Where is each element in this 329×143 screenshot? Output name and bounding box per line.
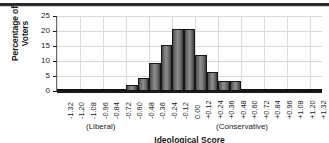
- x-tick-mark: [63, 90, 64, 93]
- x-tick-label: +0.72: [262, 91, 272, 119]
- x-tick-label: +0.84: [273, 91, 283, 119]
- top-divider-shadow: [0, 6, 329, 7]
- x-tick-label: 0.00: [193, 91, 203, 119]
- y-axis-title: Percentage of Voters: [11, 0, 30, 70]
- x-tick-label: +0.12: [204, 91, 214, 119]
- x-tick-label: -0.48: [147, 91, 157, 119]
- x-tick-mark: [236, 90, 237, 93]
- bar: [184, 29, 196, 91]
- x-tick-label: +0.36: [227, 91, 237, 119]
- bar: [172, 29, 184, 91]
- x-tick-mark: [120, 90, 121, 93]
- liberal-label: (Liberal): [86, 122, 115, 131]
- x-tick-label: +0.24: [216, 91, 226, 119]
- x-tick-label: +1.08: [296, 91, 306, 119]
- bar: [207, 72, 219, 91]
- x-tick-mark: [282, 90, 283, 93]
- x-tick-label: -0.96: [101, 91, 111, 119]
- x-tick-label: -1.32: [66, 91, 76, 119]
- y-tick-label: 20: [34, 27, 50, 35]
- x-axis-ticks: -1.32-1.20-1.08-0.96-0.84-0.72-0.60-0.48…: [57, 93, 322, 121]
- x-tick-mark: [270, 90, 271, 93]
- histogram-figure: Percentage of Voters 0510152025 -1.32-1.…: [0, 0, 329, 143]
- x-tick-label: -0.24: [170, 91, 180, 119]
- x-tick-label: -0.84: [112, 91, 122, 119]
- x-tick-mark: [201, 90, 202, 93]
- y-tick-label: 5: [34, 72, 50, 80]
- bar: [149, 63, 161, 91]
- x-tick-mark: [132, 90, 133, 93]
- x-tick-label: +0.48: [239, 91, 249, 119]
- x-tick-label: -0.12: [181, 91, 191, 119]
- plot-area: [57, 16, 322, 91]
- x-tick-label: +0.96: [285, 91, 295, 119]
- bar: [195, 55, 207, 91]
- x-tick-mark: [74, 90, 75, 93]
- x-tick-mark: [166, 90, 167, 93]
- x-tick-mark: [259, 90, 260, 93]
- x-tick-label: -0.72: [124, 91, 134, 119]
- x-tick-mark: [316, 90, 317, 93]
- y-tick-label: 0: [34, 87, 50, 95]
- bar: [161, 45, 173, 91]
- x-tick-label: +1.20: [308, 91, 318, 119]
- x-tick-mark: [143, 90, 144, 93]
- bar-series: [57, 16, 322, 91]
- y-tick-label: 10: [34, 57, 50, 65]
- x-tick-label: -1.08: [89, 91, 99, 119]
- x-tick-label: +0.60: [250, 91, 260, 119]
- x-tick-label: -0.60: [135, 91, 145, 119]
- x-tick-mark: [247, 90, 248, 93]
- x-tick-label: +1.32: [319, 91, 329, 119]
- y-tick-label: 15: [34, 42, 50, 50]
- y-tick-label: 25: [34, 12, 50, 20]
- conservative-label: (Conservative): [216, 122, 268, 131]
- x-tick-mark: [97, 90, 98, 93]
- x-axis-title: Ideological Score: [57, 135, 322, 143]
- x-tick-mark: [213, 90, 214, 93]
- x-tick-mark: [305, 90, 306, 93]
- x-tick-mark: [109, 90, 110, 93]
- x-tick-mark: [224, 90, 225, 93]
- x-tick-mark: [86, 90, 87, 93]
- x-tick-label: -0.36: [158, 91, 168, 119]
- x-tick-label: -1.20: [77, 91, 87, 119]
- x-tick-mark: [178, 90, 179, 93]
- x-tick-mark: [190, 90, 191, 93]
- x-tick-mark: [155, 90, 156, 93]
- x-tick-mark: [293, 90, 294, 93]
